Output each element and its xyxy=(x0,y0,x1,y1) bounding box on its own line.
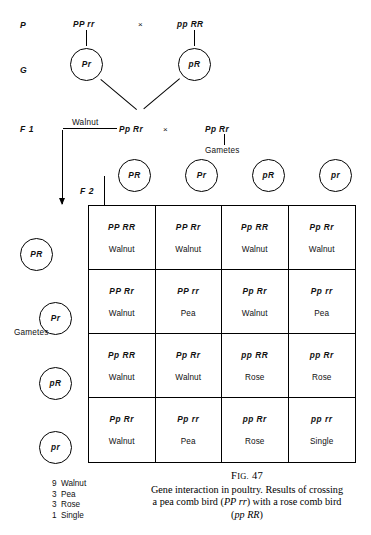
parental-gamete-left-label: Pr xyxy=(82,60,92,68)
ratio-count: 9 xyxy=(52,479,61,490)
fig-number: 47 xyxy=(252,470,263,481)
punnett-cell-phenotype: Rose xyxy=(245,437,265,446)
f1-cross-symbol: × xyxy=(163,125,168,134)
caption-line-2-b: ) with a rose comb bird xyxy=(247,496,342,507)
punnett-cell: Pp rr Pea xyxy=(156,398,223,462)
ratio-row: 3Rose xyxy=(52,500,86,511)
punnett-cell: PP rr Pea xyxy=(156,270,223,334)
punnett-cell-phenotype: Single xyxy=(310,437,333,446)
punnett-cell: PP Rr Walnut xyxy=(89,270,156,334)
side-gamete-label-4: pr xyxy=(51,443,60,451)
punnett-cell: pp Rr Rose xyxy=(222,398,289,462)
connector-f1-to-top-gametes xyxy=(224,134,225,145)
punnett-cell-genotype: PP Rr xyxy=(109,286,134,296)
punnett-cell-genotype: Pp Rr xyxy=(176,350,201,360)
punnett-cell-genotype: Pp Rr xyxy=(242,286,267,296)
connector-parent-right-to-gamete xyxy=(194,30,195,46)
stage-label-gametes: G xyxy=(20,65,27,75)
punnett-cell-phenotype: Walnut xyxy=(109,245,135,254)
top-gamete-circle-2: Pr xyxy=(185,159,218,192)
top-gamete-circle-3: pR xyxy=(252,159,285,192)
ratio-count: 3 xyxy=(52,500,61,511)
f1-arrow-vertical-segment xyxy=(62,130,63,204)
side-gamete-label-1: PR xyxy=(30,250,42,258)
punnett-cell-phenotype: Pea xyxy=(181,309,196,318)
f1-genotype-left: Pp Rr xyxy=(119,124,143,134)
ratio-count: 3 xyxy=(52,490,61,501)
punnett-cell-genotype: PP RR xyxy=(108,222,136,232)
top-gametes-label: Gametes xyxy=(205,146,240,155)
connector-gamete-right-to-f1 xyxy=(143,78,180,109)
connector-parent-left-to-gamete xyxy=(86,30,87,46)
figure-caption-text: Gene interaction in poultry. Results of … xyxy=(128,484,366,521)
stage-label-f2: F 2 xyxy=(80,186,94,196)
f1-arrow-horizontal-segment xyxy=(63,128,117,129)
punnett-cell-genotype: Pp Rr xyxy=(309,222,334,232)
punnett-cell-phenotype: Walnut xyxy=(175,245,201,254)
punnett-cell: Pp Rr Walnut xyxy=(222,270,289,334)
stage-label-f1: F 1 xyxy=(20,124,34,134)
punnett-cell: Pp RR Walnut xyxy=(222,206,289,270)
side-gamete-circle-1: PR xyxy=(20,238,53,271)
punnett-cell-genotype: pp Rr xyxy=(243,414,267,424)
ratio-phenotype: Pea xyxy=(61,490,76,499)
figure-canvas: P PP rr × pp RR G Pr pR F 1 Walnut Pp Rr… xyxy=(0,0,371,535)
connector-gamete-left-to-f1 xyxy=(100,79,137,110)
parental-genotype-left: PP rr xyxy=(73,19,95,29)
punnett-cell-genotype: Pp RR xyxy=(108,350,135,360)
f1-phenotype-label: Walnut xyxy=(72,118,98,127)
parental-gamete-right-label: pR xyxy=(189,60,201,68)
stage-label-parental: P xyxy=(20,20,26,30)
ratio-phenotype: Walnut xyxy=(61,479,86,488)
punnett-cell-genotype: Pp Rr xyxy=(109,414,134,424)
parental-cross-symbol: × xyxy=(138,20,143,29)
punnett-square-grid: PP RR Walnut PP Rr Walnut Pp RR Walnut P… xyxy=(88,205,356,463)
punnett-cell: Pp rr Pea xyxy=(289,270,356,334)
punnett-cell-genotype: pp Rr xyxy=(310,350,334,360)
parental-gamete-circle-left: Pr xyxy=(70,48,103,81)
punnett-cell-phenotype: Walnut xyxy=(109,309,135,318)
punnett-cell: pp RR Rose xyxy=(222,334,289,398)
punnett-cell: Pp Rr Walnut xyxy=(89,398,156,462)
f2-axis-vertical-tick xyxy=(104,176,105,205)
punnett-cell-genotype: PP Rr xyxy=(176,222,201,232)
punnett-cell-phenotype: Walnut xyxy=(242,245,268,254)
fig-word: IG. xyxy=(237,472,249,481)
punnett-cell-phenotype: Walnut xyxy=(175,373,201,382)
top-gamete-label-2: Pr xyxy=(197,171,207,179)
figure-number-line: FIG. 47 xyxy=(128,470,366,481)
side-gamete-label-3: pR xyxy=(50,379,62,387)
punnett-cell: Pp Rr Walnut xyxy=(156,334,223,398)
punnett-cell-phenotype: Rose xyxy=(312,373,332,382)
punnett-cell-phenotype: Walnut xyxy=(242,309,268,318)
caption-line-2-a: a pea comb bird ( xyxy=(153,496,224,507)
ratio-row: 3Pea xyxy=(52,490,86,501)
ratio-count: 1 xyxy=(52,511,61,522)
f1-arrow-head-icon xyxy=(59,198,65,205)
ratio-phenotype: Single xyxy=(61,511,84,520)
ratio-phenotype: Rose xyxy=(61,500,80,509)
top-gamete-circle-1: PR xyxy=(118,159,151,192)
punnett-cell: pp Rr Rose xyxy=(289,334,356,398)
punnett-cell-phenotype: Walnut xyxy=(109,437,135,446)
punnett-cell-genotype: Pp rr xyxy=(177,414,199,424)
side-gamete-circle-2: Pr xyxy=(39,302,72,335)
ratio-row: 9Walnut xyxy=(52,479,86,490)
caption-line-1: Gene interaction in poultry. Results of … xyxy=(151,484,343,495)
punnett-cell-phenotype: Pea xyxy=(181,437,196,446)
punnett-cell-phenotype: Pea xyxy=(314,309,329,318)
punnett-cell-genotype: Pp RR xyxy=(241,222,268,232)
punnett-cell-genotype: PP rr xyxy=(177,286,199,296)
top-gamete-label-1: PR xyxy=(128,171,140,179)
punnett-cell-phenotype: Walnut xyxy=(109,373,135,382)
punnett-cell: PP RR Walnut xyxy=(89,206,156,270)
punnett-cell: Pp RR Walnut xyxy=(89,334,156,398)
punnett-cell-phenotype: Walnut xyxy=(309,245,335,254)
punnett-cell: pp rr Single xyxy=(289,398,356,462)
ratio-row: 1Single xyxy=(52,511,86,522)
punnett-cell-genotype: Pp rr xyxy=(311,286,333,296)
figure-caption: FIG. 47 Gene interaction in poultry. Res… xyxy=(128,470,366,521)
punnett-cell: Pp Rr Walnut xyxy=(289,206,356,270)
top-gamete-circle-4: pr xyxy=(319,159,352,192)
side-gamete-circle-3: pR xyxy=(39,367,72,400)
